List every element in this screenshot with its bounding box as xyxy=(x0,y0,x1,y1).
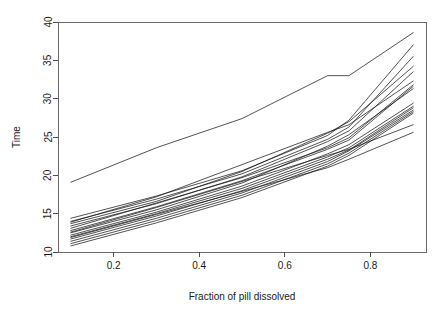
series-line xyxy=(71,57,413,222)
y-axis-tick-label: 30 xyxy=(43,93,54,105)
series-line xyxy=(71,45,413,218)
line-chart-svg: 101520253035400.20.40.60.8Fraction of pi… xyxy=(0,0,445,318)
x-axis-tick-label: 0.6 xyxy=(278,260,292,271)
x-axis-tick-label: 0.2 xyxy=(107,260,121,271)
y-axis-label: Time xyxy=(11,126,22,148)
y-axis-tick-label: 40 xyxy=(43,16,54,28)
y-axis-tick-label: 25 xyxy=(43,131,54,143)
series-line xyxy=(71,113,413,246)
y-axis-tick-label: 10 xyxy=(43,246,54,258)
y-axis-tick-label: 35 xyxy=(43,54,54,66)
x-axis-tick-label: 0.8 xyxy=(363,260,377,271)
series-line xyxy=(71,81,413,222)
plot-box xyxy=(59,23,427,253)
y-axis-tick-label: 20 xyxy=(43,169,54,181)
y-axis-tick-label: 15 xyxy=(43,208,54,220)
x-axis-tick-label: 0.4 xyxy=(192,260,206,271)
series-layer xyxy=(71,33,413,246)
series-line xyxy=(71,86,413,230)
chart-figure: 101520253035400.20.40.60.8Fraction of pi… xyxy=(0,0,445,318)
series-line xyxy=(71,72,413,226)
series-line xyxy=(71,103,413,235)
series-line xyxy=(71,33,413,183)
x-axis-label: Fraction of pill dissolved xyxy=(189,291,296,302)
